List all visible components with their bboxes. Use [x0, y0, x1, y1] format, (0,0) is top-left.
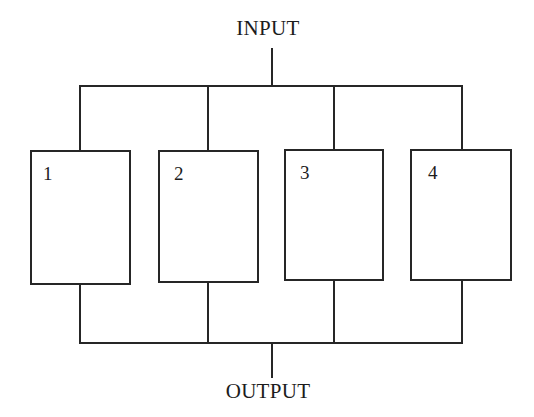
input-port-label: INPUT	[1, 18, 534, 39]
output-port-label: OUTPUT	[1, 381, 534, 402]
block-3-label: 3	[300, 163, 310, 182]
block-2-label: 2	[174, 164, 184, 183]
block-4-rect[interactable]	[411, 150, 511, 280]
block-1-label: 1	[43, 164, 53, 183]
diagram-canvas: INPUT OUTPUT 1 2 3 4	[0, 0, 534, 417]
block-diagram-svg	[0, 0, 534, 417]
block-4-label: 4	[428, 163, 438, 182]
